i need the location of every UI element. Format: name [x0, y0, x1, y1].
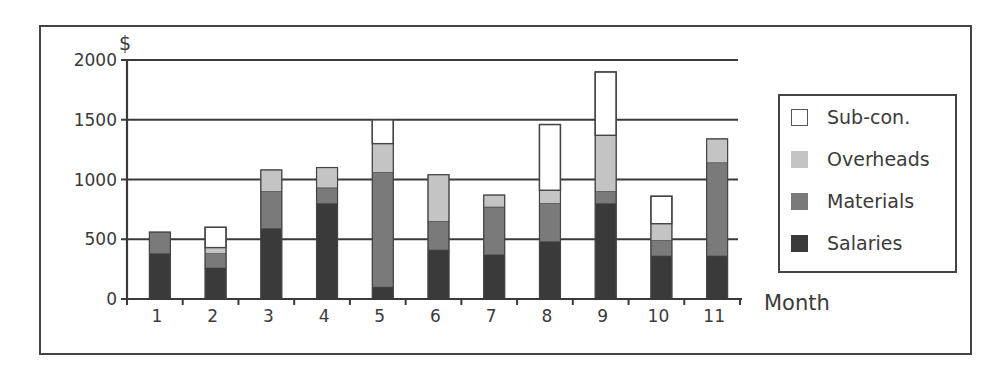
bar-segment-salaries — [428, 250, 449, 299]
bar-segment-salaries — [651, 256, 672, 299]
bar-segment-overheads — [484, 195, 505, 207]
bar-month-4 — [317, 168, 338, 299]
y-tick-label: 2000 — [74, 50, 117, 70]
bar-month-8 — [539, 125, 560, 299]
bar-segment-materials — [372, 172, 393, 287]
bar-segment-salaries — [149, 254, 170, 299]
bar-segment-salaries — [484, 255, 505, 299]
bar-segment-materials — [205, 254, 226, 268]
bar-segment-overheads — [372, 144, 393, 173]
bar-segment-materials — [484, 207, 505, 255]
bar-segment-materials — [539, 203, 560, 241]
bar-segment-salaries — [317, 203, 338, 299]
bar-segment-materials — [261, 191, 282, 228]
bar-month-11 — [707, 139, 728, 299]
bar-segment-salaries — [595, 203, 616, 299]
bar-month-5 — [372, 120, 393, 299]
bar-segment-subcon — [595, 72, 616, 135]
bar-segment-materials — [595, 191, 616, 203]
legend-swatch-salaries — [791, 235, 808, 252]
bar-month-6 — [428, 175, 449, 299]
bar-segment-salaries — [261, 228, 282, 299]
bar-month-2 — [205, 227, 226, 299]
bar-month-9 — [595, 72, 616, 299]
legend-label: Overheads — [827, 148, 930, 170]
x-tick-label: 8 — [542, 306, 553, 326]
bar-segment-materials — [428, 221, 449, 250]
bar-segment-overheads — [428, 175, 449, 222]
x-axis-title: Month — [764, 291, 830, 315]
bar-segment-overheads — [707, 139, 728, 163]
legend-label: Sub-con. — [827, 106, 910, 128]
bar-segment-overheads — [317, 168, 338, 188]
bar-segment-subcon — [651, 196, 672, 223]
bar-segment-subcon — [372, 120, 393, 144]
legend-swatch-materials — [791, 193, 808, 210]
bar-month-1 — [149, 232, 170, 299]
x-tick-label: 4 — [319, 306, 330, 326]
x-tick-label: 10 — [648, 306, 670, 326]
bar-segment-salaries — [707, 256, 728, 299]
bar-segment-subcon — [539, 125, 560, 191]
bar-segment-salaries — [205, 268, 226, 299]
y-axis-title: $ — [119, 32, 131, 54]
x-tick-label: 11 — [703, 306, 725, 326]
y-tick-label: 500 — [85, 229, 117, 249]
legend-swatch-overheads — [791, 151, 808, 168]
legend-item-materials: Materials — [791, 189, 914, 213]
y-tick-label: 0 — [106, 289, 117, 309]
bar-segment-overheads — [651, 224, 672, 241]
x-tick-label: 7 — [486, 306, 497, 326]
bar-segment-salaries — [372, 287, 393, 299]
bar-month-7 — [484, 195, 505, 299]
legend-item-subcon: Sub-con. — [791, 105, 910, 129]
x-tick-label: 2 — [207, 306, 218, 326]
bar-segment-subcon — [205, 227, 226, 247]
x-tick-label: 3 — [263, 306, 274, 326]
bars — [149, 72, 727, 299]
bar-segment-overheads — [595, 135, 616, 191]
bar-segment-materials — [707, 163, 728, 256]
x-tick-label: 6 — [430, 306, 441, 326]
x-tick-label: 9 — [597, 306, 608, 326]
legend-item-overheads: Overheads — [791, 147, 930, 171]
x-tick-label: 5 — [374, 306, 385, 326]
bar-month-3 — [261, 170, 282, 299]
legend: Sub-con. Overheads Materials Salaries — [778, 94, 957, 273]
legend-item-salaries: Salaries — [791, 231, 902, 255]
bar-segment-overheads — [539, 190, 560, 203]
bar-segment-materials — [651, 240, 672, 256]
bar-segment-materials — [317, 188, 338, 204]
bar-segment-materials — [149, 232, 170, 254]
bar-segment-salaries — [539, 242, 560, 299]
y-tick-label: 1000 — [74, 170, 117, 190]
bar-month-10 — [651, 196, 672, 299]
legend-label: Materials — [827, 190, 914, 212]
legend-label: Salaries — [827, 232, 902, 254]
x-tick-label: 1 — [151, 306, 162, 326]
bar-segment-overheads — [205, 248, 226, 254]
legend-swatch-subcon — [791, 109, 808, 126]
bar-segment-overheads — [261, 170, 282, 192]
y-tick-label: 1500 — [74, 110, 117, 130]
